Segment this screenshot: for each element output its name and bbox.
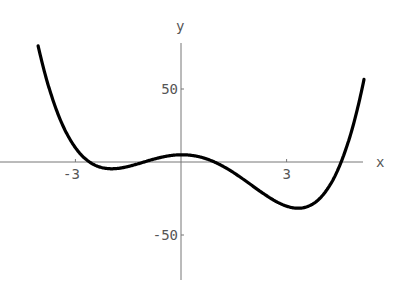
y-axis-label: y: [176, 18, 184, 34]
x-tick-label: 3: [282, 166, 290, 182]
y-tick-label: -50: [153, 227, 178, 243]
y-tick-label: 50: [161, 81, 178, 97]
function-curve: [38, 46, 364, 208]
x-tick-label: -3: [63, 166, 80, 182]
function-plot: -33 50-50 x y: [0, 0, 399, 287]
x-axis-label: x: [376, 154, 384, 170]
